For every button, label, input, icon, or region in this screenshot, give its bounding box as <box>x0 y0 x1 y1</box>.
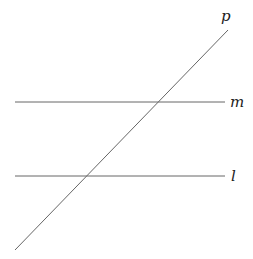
label-p: p <box>221 7 231 25</box>
label-l: l <box>231 167 236 185</box>
diagram-canvas: p m l <box>0 0 253 259</box>
line-p <box>15 30 228 250</box>
label-m: m <box>230 93 244 111</box>
